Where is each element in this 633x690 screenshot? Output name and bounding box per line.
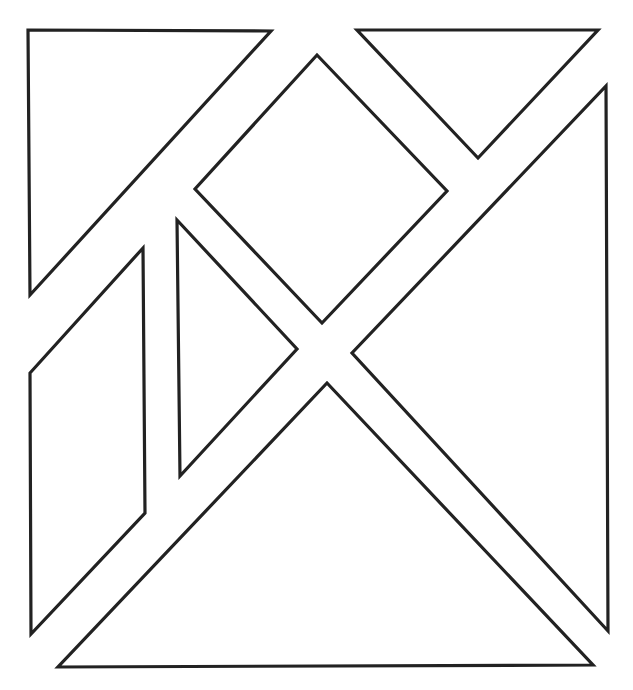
tangram-diagram [0,0,633,690]
parallelogram-left [30,248,145,634]
